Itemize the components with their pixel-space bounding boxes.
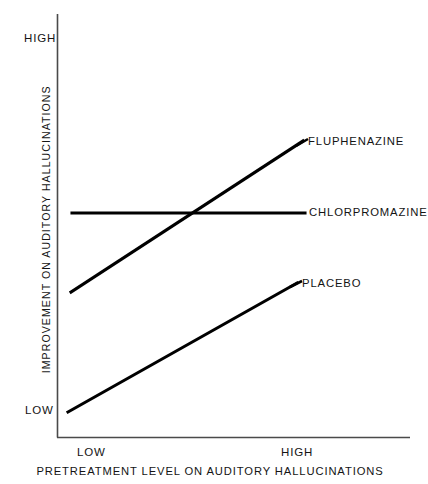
- series-line-placebo: [68, 283, 297, 412]
- y-axis-title: IMPROVEMENT ON AUDITORY HALLUCINATIONS: [41, 79, 52, 379]
- y-axis-tick-high: HIGH: [24, 33, 56, 45]
- series-label-fluphenazine: FLUPHENAZINE: [308, 136, 404, 147]
- series-label-placebo: PLACEBO: [302, 278, 361, 289]
- y-axis-tick-low: LOW: [25, 405, 54, 417]
- x-axis-title: PRETREATMENT LEVEL ON AUDITORY HALLUCINA…: [0, 466, 420, 477]
- x-axis-tick-low: LOW: [77, 447, 106, 459]
- series-line-fluphenazine: [71, 141, 303, 292]
- series-label-chlorpromazine: CHLORPROMAZINE: [309, 207, 428, 218]
- x-axis-tick-high: HIGH: [281, 447, 313, 459]
